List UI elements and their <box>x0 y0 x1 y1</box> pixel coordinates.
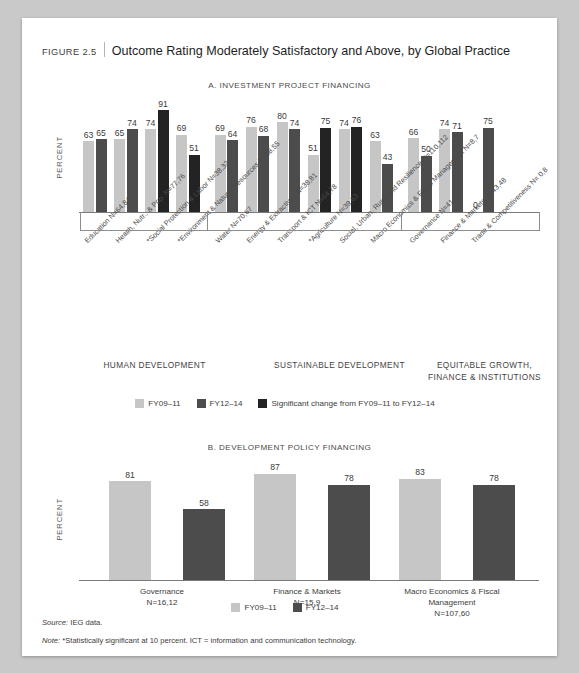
panel-b-axis-line <box>79 580 539 581</box>
bar-value-label: 91 <box>158 100 168 111</box>
figure-inner: FIGURE 2.5 Outcome Rating Moderately Sat… <box>22 18 557 656</box>
legend-swatch-fy0911 <box>135 399 144 408</box>
panel-b-bar-2-0: 83 <box>399 479 441 580</box>
panel-b-legend: FY09–11 FY12–14 <box>22 603 557 612</box>
bar-value-label: 63 <box>370 131 380 142</box>
bar-value-label: 43 <box>383 153 393 164</box>
note-label: Note: <box>42 636 60 645</box>
bar-value-label: 74 <box>339 119 349 130</box>
bar-value-label: 65 <box>115 129 125 140</box>
title-divider <box>104 42 105 57</box>
legend-label-fy0911: FY09–11 <box>148 399 180 408</box>
panel-a-plot-area: 6365657474916951696476688074517574766343… <box>79 100 539 212</box>
panel-b-plot-area: 815887788378 <box>79 458 539 580</box>
source-text: IEG data. <box>68 618 102 627</box>
legend-label-fy1214-b: FY12–14 <box>306 603 339 612</box>
legend-swatch-fy1214-b <box>293 603 302 612</box>
bar-value-label: 68 <box>259 125 269 136</box>
panel-b-bar-value-label: 83 <box>415 468 425 479</box>
legend-item-fy0911: FY09–11 <box>135 399 180 408</box>
bar-value-label: 74 <box>127 119 137 130</box>
legend-label-significant: Significant change from FY09–11 to FY12–… <box>271 399 434 408</box>
bar-value-label: 75 <box>321 117 331 128</box>
figure-note: Note: *Statistically significant at 10 p… <box>42 636 356 645</box>
panel-b-bar-value-label: 78 <box>489 474 499 485</box>
bar-value-label: 69 <box>177 124 187 135</box>
page-title: Outcome Rating Moderately Satisfactory a… <box>112 44 510 58</box>
panel-b-bar-1-0: 87 <box>254 474 296 580</box>
bar-value-label: 64 <box>228 130 238 141</box>
figure-card: FIGURE 2.5 Outcome Rating Moderately Sat… <box>22 18 557 656</box>
bar-value-label: 63 <box>84 131 94 142</box>
panel-b-y-axis-label: PERCENT <box>55 498 64 541</box>
bar-value-label: 76 <box>246 116 256 127</box>
bar-value-label: 66 <box>409 128 419 139</box>
bar-1214-0: 65 <box>96 139 107 212</box>
bar-value-label: 74 <box>290 119 300 130</box>
panel-a-legend: FY09–11 FY12–14 Significant change from … <box>22 399 557 408</box>
bar-value-label: 75 <box>483 117 493 128</box>
panel-b-bar-value-label: 78 <box>344 474 354 485</box>
panel-a-group-separator <box>401 212 402 231</box>
legend-item-fy1214-b: FY12–14 <box>293 603 339 612</box>
bar-value-label: 51 <box>308 144 318 155</box>
bar-value-label: 76 <box>352 116 362 127</box>
legend-swatch-fy0911-b <box>231 603 240 612</box>
panel-b-bar-1-1: 78 <box>328 485 370 580</box>
panel-b-heading: B. DEVELOPMENT POLICY FINANCING <box>22 443 557 452</box>
panel-b-bar-value-label: 58 <box>199 499 209 510</box>
panel-a-group-bracket <box>80 230 207 231</box>
legend-swatch-fy1214 <box>197 399 206 408</box>
figure-title-row: FIGURE 2.5 Outcome Rating Moderately Sat… <box>42 40 542 58</box>
legend-item-fy0911-b: FY09–11 <box>231 603 276 612</box>
panel-a-group-bracket <box>207 230 401 231</box>
panel-b-bar-0-1: 58 <box>183 509 225 580</box>
bar-value-label: 69 <box>215 124 225 135</box>
group-caption-equitable-growth: EQUITABLE GROWTH, FINANCE & INSTITUTIONS <box>417 359 552 383</box>
legend-swatch-significant <box>258 399 267 408</box>
group-caption-human-development: HUMAN DEVELOPMENT <box>62 359 247 371</box>
legend-item-significant: Significant change from FY09–11 to FY12–… <box>258 399 434 408</box>
panel-b-bar-2-1: 78 <box>473 485 515 580</box>
bar-value-label: 74 <box>146 119 156 130</box>
panel-b-bar-value-label: 81 <box>125 471 135 482</box>
panel-a-group-separator <box>207 212 208 231</box>
panel-a-group-separator <box>539 212 540 231</box>
panel-a-y-axis-label: PERCENT <box>55 136 64 179</box>
bar-value-label: 74 <box>440 119 450 130</box>
panel-a-group-separator <box>80 212 81 231</box>
bar-0911-0: 63 <box>83 141 94 212</box>
group-caption-sustainable-development: SUSTAINABLE DEVELOPMENT <box>247 359 432 371</box>
panel-b-bar-value-label: 87 <box>270 463 280 474</box>
note-text: *Statistically significant at 10 percent… <box>60 636 356 645</box>
panel-b-bar-0-0: 81 <box>109 481 151 580</box>
panel-a-group-bracket <box>401 230 540 231</box>
bar-value-label: 80 <box>277 112 287 123</box>
legend-item-fy1214: FY12–14 <box>197 399 243 408</box>
source-note: Source: IEG data. <box>42 618 102 627</box>
panel-a-heading: A. INVESTMENT PROJECT FINANCING <box>22 81 557 90</box>
bar-value-label: 51 <box>189 144 199 155</box>
source-label: Source: <box>42 618 68 627</box>
legend-label-fy0911-b: FY09–11 <box>244 603 276 612</box>
legend-label-fy1214: FY12–14 <box>210 399 243 408</box>
bar-value-label: 71 <box>452 122 462 133</box>
bar-value-label: 65 <box>96 129 106 140</box>
figure-number: FIGURE 2.5 <box>42 47 97 57</box>
